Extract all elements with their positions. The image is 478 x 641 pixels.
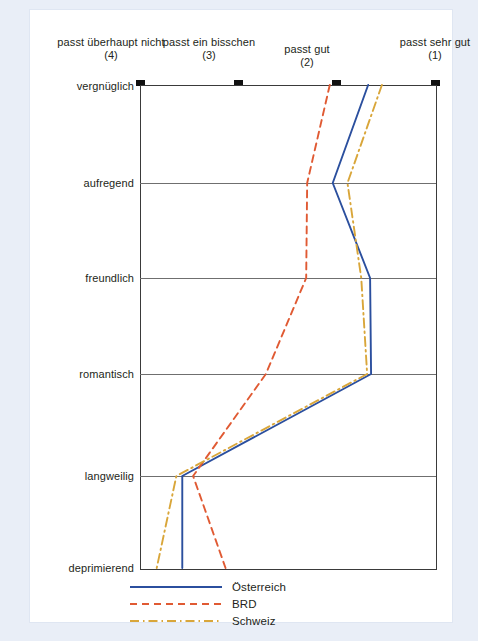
page-background: passt überhaupt nicht (4) passt ein biss… bbox=[0, 0, 478, 641]
legend-label-schweiz: Schweiz bbox=[222, 615, 276, 627]
legend-line-osterreich-icon bbox=[130, 581, 222, 593]
x-axis-label-2-text: passt gut bbox=[252, 43, 362, 56]
legend-item-brd: BRD bbox=[130, 595, 410, 612]
legend-item-schweiz: Schweiz bbox=[130, 612, 410, 629]
x-axis-label-3: passt ein bisschen (3) bbox=[154, 36, 264, 63]
legend-label-brd: BRD bbox=[222, 598, 257, 610]
y-axis-label-vergnuglich: vergnüglich bbox=[36, 80, 140, 92]
series-line-brd bbox=[193, 85, 330, 568]
y-axis-label-romantisch: romantisch bbox=[36, 368, 140, 380]
figure-card: passt überhaupt nicht (4) passt ein biss… bbox=[29, 9, 453, 623]
x-axis-label-1-number: (1) bbox=[380, 49, 478, 62]
series-line-schweiz bbox=[157, 85, 382, 568]
legend-label-osterreich: Österreich bbox=[222, 581, 286, 593]
x-axis-label-3-text: passt ein bisschen bbox=[154, 36, 264, 49]
y-axis-label-deprimierend: deprimierend bbox=[36, 562, 140, 574]
x-axis-label-2-number: (2) bbox=[252, 56, 362, 69]
x-axis-label-2: passt gut (2) bbox=[252, 43, 362, 70]
x-axis-label-1-text: passt sehr gut bbox=[380, 36, 478, 49]
x-axis-label-1: passt sehr gut (1) bbox=[380, 36, 478, 63]
legend-item-osterreich: Österreich bbox=[130, 578, 410, 595]
legend-line-brd-icon bbox=[130, 598, 222, 610]
chart-legend: Österreich BRD Schweiz bbox=[130, 578, 410, 630]
legend-line-schweiz-icon bbox=[130, 615, 222, 627]
y-axis-label-freundlich: freundlich bbox=[36, 272, 140, 284]
y-axis-label-langweilig: langweilig bbox=[36, 470, 140, 482]
x-axis-label-3-number: (3) bbox=[154, 49, 264, 62]
y-axis-labels: vergnüglich aufregend freundlich romanti… bbox=[30, 10, 140, 641]
series-plot-area bbox=[140, 85, 436, 569]
series-line-sterreich bbox=[182, 85, 371, 568]
y-axis-label-aufregend: aufregend bbox=[36, 177, 140, 189]
